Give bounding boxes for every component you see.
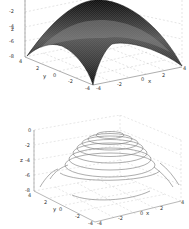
- x-axis-ticks: -4 -2 0 2 4 x: [97, 199, 184, 226]
- x-tick: 4: [183, 65, 186, 71]
- z-tick: 0: [28, 127, 31, 133]
- x-tick: -2: [118, 215, 123, 221]
- contour3-plot: 0 -2 -4 -6 -8 z 4 2 0 -2 -4 y -4 -2 0 2 …: [0, 115, 189, 229]
- y-tick: 4: [19, 58, 22, 64]
- axes-grid: [34, 115, 181, 218]
- x-tick: -2: [117, 81, 122, 87]
- y-axis-label: y: [53, 206, 57, 213]
- x-tick: 0: [141, 76, 144, 82]
- z-tick: -6: [9, 38, 14, 44]
- y-tick: 0: [53, 72, 56, 78]
- x-tick: -4: [96, 85, 101, 91]
- z-tick: -4: [25, 157, 30, 163]
- z-axis-ticks: -2 -4 -6 -8 z: [9, 8, 14, 59]
- z-tick: -6: [25, 172, 30, 178]
- surface-plot-canvas: -2 -4 -6 -8 z 4 2 0 -2 -4 y -4 -2 0 2 4 …: [0, 0, 189, 115]
- y-tick: -4: [88, 220, 93, 226]
- contour-lines: [40, 132, 179, 200]
- x-tick: 2: [160, 205, 163, 211]
- surface-plot: -2 -4 -6 -8 z 4 2 0 -2 -4 y -4 -2 0 2 4 …: [0, 0, 189, 115]
- z-axis-label: z: [20, 157, 23, 163]
- y-tick: -2: [68, 78, 73, 84]
- x-tick: 2: [162, 72, 165, 78]
- x-tick: -4: [97, 220, 102, 226]
- z-tick: -2: [25, 142, 30, 148]
- z-axis-ticks: 0 -2 -4 -6 -8 z: [20, 127, 31, 193]
- y-axis-ticks: 4 2 0 -2 -4 y: [28, 192, 93, 226]
- x-axis-label: x: [146, 210, 150, 216]
- y-tick: -2: [75, 213, 80, 219]
- z-tick: -2: [9, 8, 14, 14]
- x-axis-label: x: [148, 78, 152, 84]
- y-tick: 2: [44, 199, 47, 205]
- z-tick: -8: [9, 53, 14, 59]
- x-tick: 4: [181, 199, 184, 205]
- y-tick: 2: [36, 65, 39, 71]
- contour3-plot-canvas: 0 -2 -4 -6 -8 z 4 2 0 -2 -4 y -4 -2 0 2 …: [0, 115, 189, 229]
- y-axis-label: y: [43, 73, 47, 80]
- x-tick: 0: [140, 210, 143, 216]
- y-tick: 4: [28, 192, 31, 198]
- z-axis-label: z: [11, 26, 14, 32]
- y-tick: -4: [85, 85, 90, 91]
- y-tick: 0: [59, 206, 62, 212]
- y-axis-ticks: 4 2 0 -2 -4 y: [19, 58, 90, 91]
